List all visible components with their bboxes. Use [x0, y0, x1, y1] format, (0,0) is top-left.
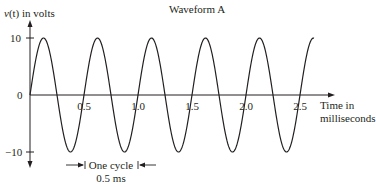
- x-tick-label: 2.5: [293, 100, 307, 112]
- y-tick-label-10: 10: [10, 32, 22, 44]
- x-tick-label: 1.5: [185, 100, 199, 112]
- cycle-duration: 0.5 ms: [96, 172, 125, 184]
- waveform-chart: Waveform A v(t) in volts 10 0 −10 0.5 1.…: [0, 0, 376, 187]
- x-tick-label: 1.0: [131, 100, 145, 112]
- y-tick-label-neg10: −10: [5, 146, 23, 158]
- x-axis-arrow-icon: [328, 93, 335, 98]
- y-axis-label: v(t) in volts: [4, 7, 55, 20]
- x-tick-label: 0.5: [77, 100, 91, 112]
- y-axis-arrow-up-icon: [28, 20, 33, 27]
- y-tick-label-0: 0: [17, 89, 23, 101]
- arrow-right-icon: [78, 163, 84, 168]
- y-axis-arrow-down-icon: [28, 161, 33, 168]
- x-axis-label-line1: Time in: [320, 99, 355, 111]
- x-tick-label: 2.0: [239, 100, 253, 112]
- x-axis-label-line2: milliseconds: [320, 112, 376, 124]
- cycle-label: One cycle: [89, 159, 133, 171]
- chart-title: Waveform A: [169, 3, 225, 15]
